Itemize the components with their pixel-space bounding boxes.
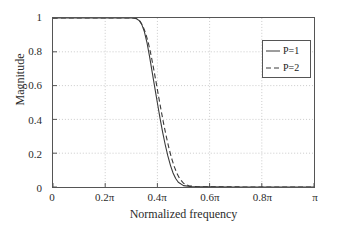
y-tick-label: 0.8 <box>28 46 48 57</box>
y-tick-label: 0.2 <box>28 148 48 159</box>
x-tick-label: 0 <box>49 192 55 203</box>
x-tick-label: 0.6π <box>200 192 219 203</box>
x-tick-label: 0.8π <box>253 192 272 203</box>
figure-container: 00.20.40.60.81 00.2π0.4π0.6π0.8ππ Normal… <box>0 0 337 230</box>
y-tick-label: 0 <box>37 183 49 194</box>
y-tick-label: 0.4 <box>28 114 48 125</box>
x-axis-tick-labels: 00.2π0.4π0.6π0.8ππ <box>52 192 315 206</box>
legend-label-p1: P=1 <box>283 46 299 56</box>
y-axis-title: Magnitude <box>13 30 28 130</box>
legend-line-sample-dashed <box>266 64 280 72</box>
legend-line-sample-solid <box>266 47 280 55</box>
y-tick-label: 1 <box>37 12 49 23</box>
y-tick-label: 0.6 <box>28 80 48 91</box>
x-tick-label: π <box>312 192 318 203</box>
legend-label-p2: P=2 <box>283 63 299 73</box>
x-tick-label: 0.2π <box>95 192 114 203</box>
legend-item-p2: P=2 <box>263 59 310 76</box>
legend-item-p1: P=1 <box>263 42 310 59</box>
legend-box: P=1 P=2 <box>262 40 311 78</box>
x-tick-label: 0.4π <box>148 192 167 203</box>
x-axis-title: Normalized frequency <box>52 207 315 222</box>
